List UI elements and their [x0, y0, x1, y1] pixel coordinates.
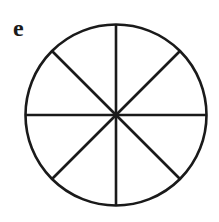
divided-circle-diagram [0, 0, 219, 222]
